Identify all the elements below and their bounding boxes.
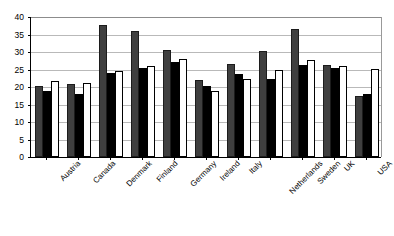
bar <box>339 66 347 157</box>
x-tick-mark <box>270 157 271 160</box>
bar <box>67 84 75 158</box>
y-tick-label: 5 <box>2 135 24 144</box>
bars-layer <box>31 17 381 157</box>
bar-group <box>223 17 255 157</box>
x-tick-mark <box>302 157 303 160</box>
bar-group <box>31 17 63 157</box>
y-tick-mark <box>28 52 31 53</box>
x-tick-mark <box>46 157 47 160</box>
y-tick-label: 40 <box>2 13 24 22</box>
y-tick-label: 20 <box>2 83 24 92</box>
x-axis: AustriaCanadaDenmarkFinlandGermanyIrelan… <box>30 159 382 235</box>
bar <box>275 70 283 157</box>
x-tick-mark <box>206 157 207 160</box>
bar <box>171 62 179 157</box>
bar <box>75 94 83 157</box>
x-tick-label: Ireland <box>218 159 242 183</box>
x-tick-label: Austria <box>58 159 82 183</box>
x-tick-label: USA <box>376 159 394 177</box>
bar-chart: 0510152025303540 AustriaCanadaDenmarkFin… <box>0 0 394 236</box>
bar <box>179 59 187 157</box>
y-tick-mark <box>28 17 31 18</box>
bar <box>243 79 251 157</box>
bar <box>323 65 331 157</box>
x-tick-mark <box>110 157 111 160</box>
x-tick-label: UK <box>342 159 356 173</box>
y-tick-mark <box>28 35 31 36</box>
x-tick-label: Canada <box>91 159 117 185</box>
plot-area <box>30 17 382 157</box>
x-tick-mark <box>238 157 239 160</box>
x-tick-label: Italy <box>247 159 264 176</box>
bar <box>211 91 219 158</box>
bar <box>235 74 243 157</box>
bar <box>259 51 267 157</box>
bar <box>131 31 139 157</box>
bar <box>203 86 211 157</box>
bar <box>107 73 115 157</box>
x-tick-label: Finland <box>155 159 180 184</box>
bar-group <box>287 17 319 157</box>
bar <box>83 83 91 157</box>
bar-group <box>351 17 383 157</box>
y-tick-mark <box>28 157 31 158</box>
x-tick-mark <box>334 157 335 160</box>
bar-group <box>63 17 95 157</box>
y-tick-mark <box>28 140 31 141</box>
y-tick-mark <box>28 87 31 88</box>
bar-group <box>95 17 127 157</box>
bar <box>35 86 43 157</box>
bar <box>331 68 339 157</box>
bar <box>291 29 299 157</box>
y-tick-mark <box>28 105 31 106</box>
bar <box>51 81 59 157</box>
x-tick-mark <box>366 157 367 160</box>
bar <box>355 96 363 157</box>
bar <box>163 50 171 157</box>
bar <box>195 80 203 157</box>
x-tick-label: Germany <box>189 159 219 189</box>
y-axis: 0510152025303540 <box>0 17 28 157</box>
bar <box>99 25 107 157</box>
bar <box>227 64 235 157</box>
bar-group <box>191 17 223 157</box>
x-tick-mark <box>142 157 143 160</box>
bar-group <box>127 17 159 157</box>
bar <box>299 65 307 157</box>
bar-group <box>159 17 191 157</box>
y-tick-label: 10 <box>2 118 24 127</box>
x-tick-mark <box>174 157 175 160</box>
y-tick-label: 35 <box>2 30 24 39</box>
bar <box>115 71 123 157</box>
y-tick-mark <box>28 70 31 71</box>
bar <box>267 79 275 157</box>
bar <box>147 66 155 157</box>
y-tick-label: 25 <box>2 65 24 74</box>
x-tick-label: Denmark <box>125 159 154 188</box>
y-tick-label: 15 <box>2 100 24 109</box>
bar <box>43 91 51 158</box>
x-tick-mark <box>78 157 79 160</box>
bar <box>139 68 147 157</box>
y-tick-mark <box>28 122 31 123</box>
bar <box>363 94 371 157</box>
y-tick-label: 0 <box>2 153 24 162</box>
y-tick-label: 30 <box>2 48 24 57</box>
bar-group <box>319 17 351 157</box>
bar <box>307 60 315 157</box>
bar <box>371 69 379 157</box>
bar-group <box>255 17 287 157</box>
